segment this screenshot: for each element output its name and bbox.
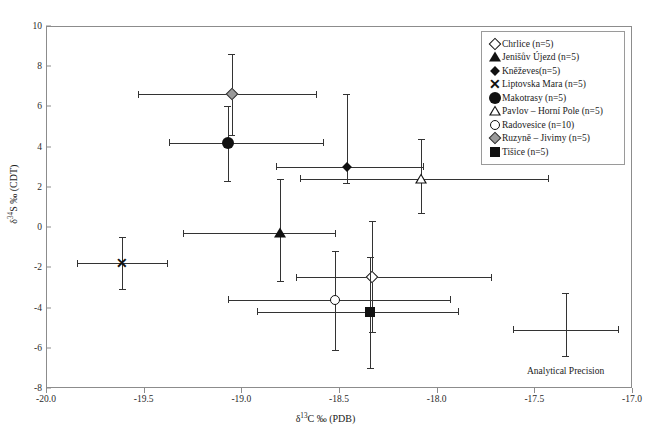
legend-marker-triangle-filled-icon: [488, 51, 502, 64]
error-bar-vertical: [566, 293, 567, 355]
legend-marker-glyph: ✕: [489, 78, 502, 91]
x-tick-mark: [46, 388, 47, 393]
legend-marker-circle-open-icon: [488, 118, 502, 131]
legend-item[interactable]: Pavlov – Horní Pole (n=5): [488, 105, 618, 119]
y-tick-label: 2: [37, 182, 42, 192]
legend-item-label: Ruzyně – Jivimy (n=5): [502, 133, 590, 143]
legend-item-label: Radovesice (n=10): [502, 120, 574, 130]
y-tick-label: 8: [37, 61, 42, 71]
legend-marker-circle-filled-icon: [488, 91, 502, 104]
legend-marker-diamond-gray-icon: [488, 132, 502, 145]
legend-marker-glyph: [490, 66, 500, 76]
legend-item-label: Makotrasy (n=5): [502, 93, 566, 103]
y-tick-label: 6: [37, 101, 42, 111]
legend-item[interactable]: Jenišův Újezd (n=5): [488, 51, 618, 65]
y-tick-label: -6: [34, 343, 42, 353]
y-tick-label: 10: [33, 21, 43, 31]
y-tick-label: 0: [37, 222, 42, 232]
legend-marker-x-cross-icon: ✕: [488, 78, 502, 91]
x-tick-mark: [339, 388, 340, 393]
x-axis-title-text: δ13C ‰ (PDB): [296, 413, 356, 424]
x-axis-title: δ13C ‰ (PDB): [0, 412, 651, 424]
x-tick-label: -19.5: [134, 394, 154, 404]
x-tick-label: -17.0: [622, 394, 642, 404]
legend-item[interactable]: Radovesice (n=10): [488, 118, 618, 132]
error-bar-cap: [562, 356, 569, 357]
x-tick-label: -18.0: [427, 394, 447, 404]
legend-item-label: Liptovska Mara (n=5): [502, 79, 586, 89]
x-axis-tick-labels: -20.0-19.5-19.0-18.5-18.0-17.5-17.0: [0, 394, 651, 410]
legend-item[interactable]: Ruzyně – Jivimy (n=5): [488, 132, 618, 146]
legend-marker-glyph: [489, 92, 501, 104]
x-tick-mark: [144, 388, 145, 393]
analytical-precision-label: Analytical Precision: [527, 366, 604, 376]
legend-marker-glyph: [489, 132, 502, 145]
x-tick-label: -20.0: [36, 394, 56, 404]
legend-marker-diamond-open-icon: [488, 37, 502, 50]
legend-item[interactable]: Tišice (n=5): [488, 145, 618, 159]
y-axis-title: δ34S ‰ (CDT): [7, 149, 19, 239]
legend: Chrlice (n=5)Jenišův Újezd (n=5)Kněževes…: [481, 31, 625, 165]
legend-item[interactable]: Chrlice (n=5): [488, 37, 618, 51]
error-bar-cap: [618, 326, 619, 333]
legend-item-label: Tišice (n=5): [502, 147, 548, 157]
legend-marker-glyph: [489, 52, 501, 62]
x-tick-mark: [437, 388, 438, 393]
error-bar-cap: [562, 293, 569, 294]
x-tick-label: -17.5: [524, 394, 544, 404]
y-tick-label: -8: [34, 383, 42, 393]
legend-marker-glyph: [490, 120, 500, 130]
x-tick-mark: [632, 388, 633, 393]
legend-item-label: Pavlov – Horní Pole (n=5): [502, 106, 603, 116]
legend-item-label: Jenišův Újezd (n=5): [502, 52, 579, 62]
y-tick-label: 4: [37, 142, 42, 152]
error-bar-cap: [513, 326, 514, 333]
legend-item[interactable]: Kněževes(n=5): [488, 64, 618, 78]
x-tick-mark: [534, 388, 535, 393]
legend-item[interactable]: ✕Liptovska Mara (n=5): [488, 78, 618, 92]
legend-marker-square-filled-icon: [488, 145, 502, 158]
legend-marker-glyph: [490, 147, 500, 157]
x-tick-mark: [241, 388, 242, 393]
x-tick-label: -18.5: [329, 394, 349, 404]
y-axis-title-text: δ34S ‰ (CDT): [8, 165, 19, 224]
legend-marker-glyph: [489, 37, 502, 50]
legend-marker-triangle-open-icon: [488, 105, 502, 118]
legend-item-label: Kněževes(n=5): [502, 66, 560, 76]
y-tick-label: -2: [34, 262, 42, 272]
chart-root: 1086420-2-4-6-8 ✕Analytical Precision -2…: [0, 0, 651, 441]
y-tick-label: -4: [34, 303, 42, 313]
x-tick-label: -19.0: [231, 394, 251, 404]
legend-marker-glyph: [489, 106, 501, 116]
legend-item-label: Chrlice (n=5): [502, 39, 554, 49]
legend-item[interactable]: Makotrasy (n=5): [488, 91, 618, 105]
